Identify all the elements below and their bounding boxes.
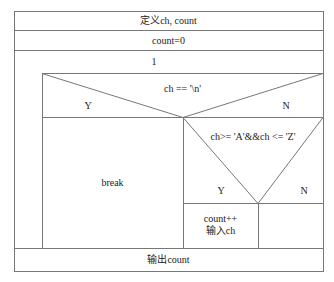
break-step: break [42, 177, 183, 189]
outer-if-condition: ch == '\n' [42, 83, 323, 95]
declare-step: 定义ch, count [14, 15, 323, 27]
outer-if-diagonal-right [183, 74, 323, 118]
input-ch-step: 输入ch [183, 225, 258, 237]
outer-if-yes-label: Y [78, 100, 98, 112]
inner-if-condition: ch>= 'A'&&ch <= 'Z' [183, 131, 323, 143]
inner-if-yes-label: Y [211, 185, 231, 197]
outer-if-diagonal-left [42, 74, 183, 118]
count-increment-step: count++ [183, 213, 258, 225]
output-step: 输出count [14, 254, 323, 266]
loop-condition: 1 [14, 56, 294, 68]
outer-if-no-label: N [276, 100, 296, 112]
inner-if-no-label: N [294, 185, 314, 197]
init-step: count=0 [14, 35, 323, 47]
